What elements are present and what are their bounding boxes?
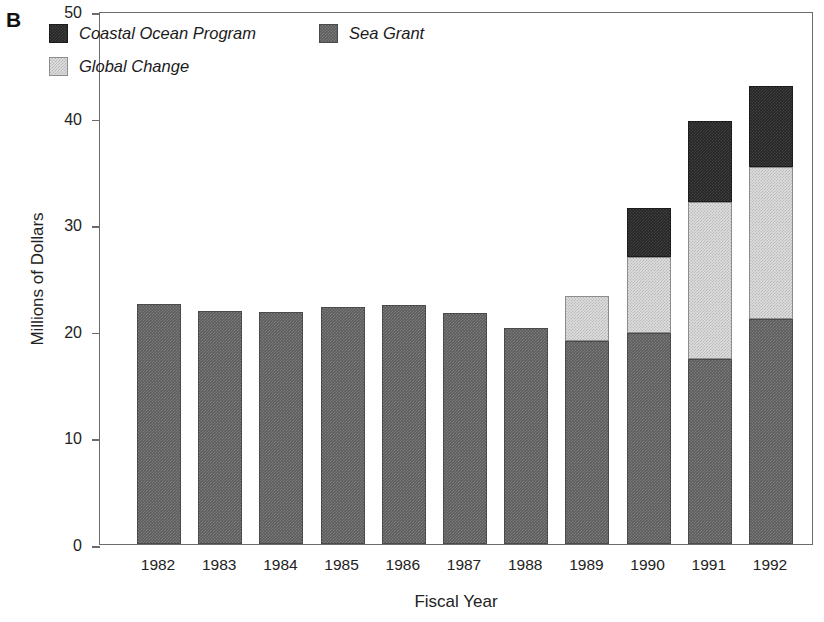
bar-1990 bbox=[627, 208, 671, 544]
bar-1987 bbox=[443, 313, 487, 544]
legend-swatch-icon bbox=[319, 24, 338, 43]
bar-segment-global-change bbox=[688, 202, 732, 359]
bar-segment-sea-grant bbox=[382, 305, 426, 544]
legend-label: Sea Grant bbox=[349, 24, 424, 43]
y-tick-label: 20 bbox=[42, 324, 82, 342]
bar-segment-sea-grant bbox=[198, 311, 242, 544]
y-axis-title: Millions of Dollars bbox=[28, 212, 48, 345]
x-tick-label: 1991 bbox=[692, 556, 726, 574]
x-tick-label: 1990 bbox=[630, 556, 664, 574]
x-tick-label: 1985 bbox=[324, 556, 358, 574]
x-tick-label: 1992 bbox=[753, 556, 787, 574]
bar-segment-sea-grant bbox=[259, 312, 303, 544]
y-tick-mark bbox=[92, 13, 100, 15]
y-tick-label: 50 bbox=[42, 4, 82, 22]
x-tick-label: 1987 bbox=[447, 556, 481, 574]
x-axis-title: Fiscal Year bbox=[414, 592, 497, 612]
bar-segment-sea-grant bbox=[627, 333, 671, 544]
y-tick-mark bbox=[92, 333, 100, 335]
plot-area: 01020304050 Millions of Dollars bbox=[99, 12, 813, 545]
x-tick-label: 1983 bbox=[202, 556, 236, 574]
y-tick-label: 40 bbox=[42, 111, 82, 129]
bar-segment-coastal-ocean-program bbox=[627, 208, 671, 257]
x-tick-label: 1988 bbox=[508, 556, 542, 574]
y-tick-label: 10 bbox=[42, 430, 82, 448]
bar-segment-sea-grant bbox=[688, 359, 732, 544]
bar-1992 bbox=[749, 86, 793, 544]
y-tick-mark bbox=[92, 439, 100, 441]
bar-1983 bbox=[198, 311, 242, 544]
x-tick-label: 1982 bbox=[141, 556, 175, 574]
y-tick-mark bbox=[92, 226, 100, 228]
legend-label: Global Change bbox=[79, 57, 189, 76]
y-tick-mark bbox=[92, 120, 100, 122]
y-tick-label: 30 bbox=[42, 217, 82, 235]
panel-letter: B bbox=[6, 8, 21, 32]
bar-segment-sea-grant bbox=[749, 319, 793, 544]
bar-segment-global-change bbox=[627, 257, 671, 333]
legend-swatch-icon bbox=[49, 57, 68, 76]
legend-item-global-change: Global Change bbox=[49, 57, 189, 76]
legend-item-sea-grant: Sea Grant bbox=[319, 24, 424, 43]
bar-segment-sea-grant bbox=[137, 304, 181, 544]
bar-1984 bbox=[259, 312, 303, 544]
bar-1991 bbox=[688, 121, 732, 544]
bar-segment-global-change bbox=[749, 167, 793, 319]
legend-label: Coastal Ocean Program bbox=[79, 24, 256, 43]
bar-1989 bbox=[565, 296, 609, 544]
bar-1985 bbox=[321, 307, 365, 544]
bar-1982 bbox=[137, 304, 181, 544]
bar-segment-sea-grant bbox=[504, 328, 548, 544]
bar-1986 bbox=[382, 305, 426, 544]
legend-swatch-icon bbox=[49, 24, 68, 43]
bar-segment-sea-grant bbox=[565, 341, 609, 544]
bar-1988 bbox=[504, 328, 548, 544]
x-tick-label: 1989 bbox=[569, 556, 603, 574]
legend-item-coastal-ocean-program: Coastal Ocean Program bbox=[49, 24, 256, 43]
bar-segment-coastal-ocean-program bbox=[749, 86, 793, 167]
bar-segment-coastal-ocean-program bbox=[688, 121, 732, 202]
y-tick-label: 0 bbox=[42, 537, 82, 555]
bar-segment-global-change bbox=[565, 296, 609, 342]
bar-segment-sea-grant bbox=[443, 313, 487, 544]
bar-segment-sea-grant bbox=[321, 307, 365, 544]
x-tick-label: 1986 bbox=[386, 556, 420, 574]
chart-figure: B 01020304050 Millions of Dollars 198219… bbox=[0, 0, 824, 622]
y-tick-mark bbox=[92, 546, 100, 548]
x-tick-label: 1984 bbox=[263, 556, 297, 574]
